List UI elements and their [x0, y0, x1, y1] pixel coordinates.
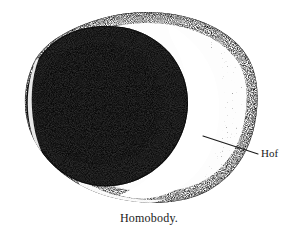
- figure-caption: Homobody.: [0, 211, 298, 225]
- cell-body: [0, 0, 298, 234]
- cell-illustration: [0, 0, 298, 234]
- figure-root: Hof Homobody.: [0, 0, 298, 234]
- hof-annotation-label: Hof: [261, 147, 278, 160]
